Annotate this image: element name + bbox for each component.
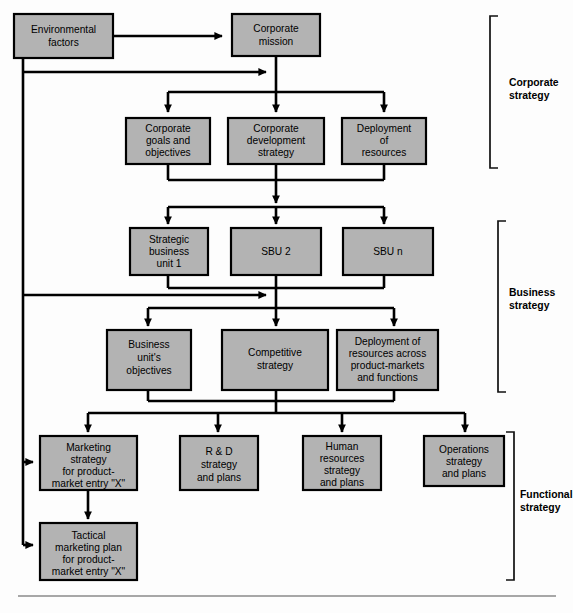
node-label: market entry "X" — [52, 478, 126, 489]
bracket-business-strategy: Business strategy — [498, 221, 555, 392]
node-tactical-marketing-plan[interactable]: Tactical marketing plan for product- mar… — [40, 523, 137, 580]
bracket-label: strategy — [520, 502, 561, 513]
node-label: resources — [320, 453, 365, 464]
node-label: strategy — [258, 147, 295, 158]
node-sbu-2[interactable]: SBU 2 — [231, 228, 321, 275]
node-label: strategy — [257, 360, 294, 371]
node-label: resources across — [349, 348, 427, 359]
node-label: objectives — [145, 147, 190, 158]
node-label: Corporate — [253, 123, 299, 134]
node-label: market entry "X" — [52, 566, 126, 577]
node-label: R & D — [205, 446, 232, 457]
node-human-resources-strategy[interactable]: Human resources strategy and plans — [303, 436, 381, 490]
node-label: and plans — [442, 468, 486, 479]
node-label: objectives — [126, 365, 171, 376]
bracket-functional-strategy: Functional strategy — [506, 432, 573, 580]
bracket-corporate-strategy: Corporate strategy — [490, 16, 559, 168]
node-label: resources — [362, 147, 407, 158]
node-sbu-n[interactable]: SBU n — [343, 228, 433, 275]
node-label: for product- — [62, 466, 114, 477]
node-corporate-mission[interactable]: Corporate mission — [232, 14, 320, 56]
node-label: Corporate — [145, 123, 191, 134]
node-label: unit 1 — [157, 258, 182, 269]
bracket-label: Business — [509, 287, 555, 298]
node-label: Environmental — [31, 24, 96, 35]
node-label: Strategic — [149, 234, 189, 245]
node-label: Corporate — [253, 23, 299, 34]
bracket-label: strategy — [509, 90, 550, 101]
node-label: Deployment — [357, 123, 412, 134]
node-label: strategy — [201, 459, 238, 470]
node-label: and plans — [197, 472, 241, 483]
node-operations-strategy[interactable]: Operations strategy and plans — [424, 436, 504, 486]
node-label: strategy — [324, 465, 361, 476]
node-deployment-of-resources[interactable]: Deployment of resources — [342, 118, 426, 164]
node-label: strategy — [446, 456, 483, 467]
node-label: Deployment of — [355, 336, 421, 347]
node-label: product-markets — [351, 360, 425, 371]
node-label: Human — [326, 441, 359, 452]
node-sbu-1[interactable]: Strategic business unit 1 — [130, 228, 208, 275]
node-label: of — [380, 135, 389, 146]
node-label: goals and — [146, 135, 191, 146]
node-business-unit-objectives[interactable]: Business unit's objectives — [107, 330, 191, 390]
node-label: SBU n — [373, 246, 402, 257]
node-deployment-across-product-markets[interactable]: Deployment of resources across product-m… — [337, 330, 438, 390]
bracket-label: strategy — [509, 300, 550, 311]
node-label: factors — [48, 37, 79, 48]
flowchart-canvas: Environmental factors Corporate mission … — [0, 0, 573, 613]
node-label: Operations — [439, 444, 489, 455]
node-environmental-factors[interactable]: Environmental factors — [14, 14, 113, 58]
node-label: mission — [259, 36, 294, 47]
node-corporate-development-strategy[interactable]: Corporate development strategy — [228, 118, 324, 164]
node-label: Business — [128, 339, 169, 350]
node-label: unit's — [137, 352, 160, 363]
strategy-hierarchy-diagram: Environmental factors Corporate mission … — [0, 0, 573, 613]
node-label: for product- — [62, 554, 114, 565]
node-label: SBU 2 — [261, 246, 291, 257]
bracket-label: Corporate — [509, 77, 559, 88]
bracket-layer: Corporate strategy Business strategy Fun… — [490, 16, 573, 580]
node-label: development — [247, 135, 306, 146]
bracket-shape — [506, 432, 514, 580]
node-label: and plans — [320, 477, 364, 488]
bracket-shape — [498, 221, 506, 392]
node-label: Marketing — [66, 442, 111, 453]
node-label: Tactical — [72, 530, 106, 541]
node-competitive-strategy[interactable]: Competitive strategy — [222, 330, 328, 390]
node-marketing-strategy[interactable]: Marketing strategy for product- market e… — [40, 436, 137, 490]
node-label: strategy — [70, 454, 107, 465]
node-label: business — [149, 246, 189, 257]
node-label: and functions — [357, 372, 418, 383]
bracket-shape — [490, 16, 498, 168]
node-corporate-goals[interactable]: Corporate goals and objectives — [126, 118, 210, 164]
node-label: marketing plan — [55, 542, 122, 553]
node-label: Competitive — [248, 347, 302, 358]
node-rd-strategy[interactable]: R & D strategy and plans — [180, 436, 258, 490]
bracket-label: Functional — [520, 489, 573, 500]
